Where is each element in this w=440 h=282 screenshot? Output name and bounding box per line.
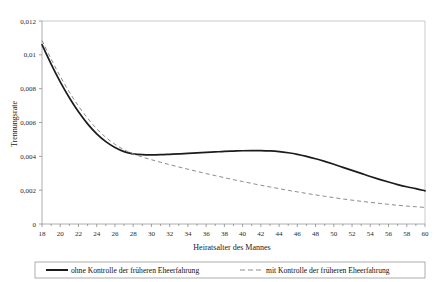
x-tick-label: 26: [111, 230, 119, 238]
legend-label-ohne-kontrolle: ohne Kontrolle der früheren Eheerfahrung: [71, 266, 199, 275]
x-tick-label: 46: [294, 230, 302, 238]
y-tick-label: 0,004: [20, 153, 36, 161]
x-tick-label: 38: [221, 230, 229, 238]
series-line-ohne-kontrolle: [42, 45, 425, 191]
x-tick-label: 32: [166, 230, 174, 238]
x-tick-label: 36: [203, 230, 211, 238]
x-axis-ticks: 1820222426283032343638404244464850525456…: [39, 224, 430, 238]
y-axis-ticks: 00,0020,0040,0060,0080,010,012: [20, 18, 42, 229]
chart-container: 00,0020,0040,0060,0080,010,012 182022242…: [0, 0, 440, 282]
y-tick-label: 0,01: [24, 51, 37, 59]
x-tick-label: 42: [257, 230, 265, 238]
x-tick-label: 56: [385, 230, 393, 238]
y-axis-title: Trennungsrate: [10, 101, 19, 147]
series-line-mit-kontrolle: [42, 40, 425, 207]
y-tick-label: 0,006: [20, 119, 36, 127]
series-group: [42, 40, 425, 207]
y-tick-label: 0,002: [20, 187, 36, 195]
x-tick-label: 30: [148, 230, 156, 238]
y-tick-label: 0,012: [20, 18, 36, 26]
y-tick-label: 0: [33, 221, 37, 229]
x-tick-label: 52: [349, 230, 357, 238]
x-tick-label: 20: [57, 230, 65, 238]
plot-frame: [42, 21, 425, 224]
x-tick-label: 54: [367, 230, 375, 238]
x-tick-label: 40: [239, 230, 247, 238]
x-tick-label: 24: [93, 230, 101, 238]
trennungsrate-line-chart: 00,0020,0040,0060,0080,010,012 182022242…: [0, 0, 440, 282]
x-tick-label: 22: [75, 230, 83, 238]
x-axis-title: Heiratsalter des Mannes: [193, 243, 270, 252]
y-tick-label: 0,008: [20, 85, 36, 93]
x-tick-label: 60: [422, 230, 430, 238]
x-tick-label: 28: [130, 230, 138, 238]
x-tick-label: 48: [312, 230, 320, 238]
x-tick-label: 50: [330, 230, 338, 238]
legend-label-mit-kontrolle: mit Kontrolle der früheren Eheerfahrung: [266, 266, 390, 275]
x-tick-label: 44: [276, 230, 284, 238]
x-tick-label: 58: [403, 230, 411, 238]
x-tick-label: 18: [39, 230, 47, 238]
x-tick-label: 34: [184, 230, 192, 238]
chart-legend: ohne Kontrolle der früheren Eheerfahrung…: [35, 262, 425, 278]
